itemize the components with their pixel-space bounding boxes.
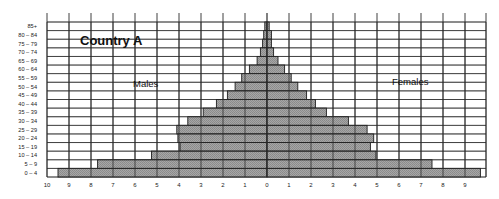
male-bar — [180, 143, 267, 152]
y-axis-label: 70 – 74 — [18, 49, 37, 55]
y-axis-label: 85+ — [28, 23, 38, 29]
female-bar — [267, 108, 326, 117]
x-axis-label: 0 — [265, 182, 269, 188]
y-axis-label: 45 – 49 — [18, 92, 37, 98]
x-axis-label: 5 — [375, 182, 379, 188]
x-axis-label: 6 — [397, 182, 401, 188]
female-bar — [267, 160, 432, 169]
male-bar — [227, 91, 267, 100]
males-label: Males — [133, 78, 159, 89]
y-axis-label: 50 – 54 — [18, 84, 37, 90]
x-axis-label: 5 — [155, 182, 159, 188]
male-bar — [177, 125, 267, 134]
female-bar — [267, 31, 271, 40]
male-bar — [260, 48, 267, 57]
x-axis-label: 1 — [243, 182, 247, 188]
female-bar — [267, 65, 285, 74]
y-axis-label: 0 – 4 — [25, 170, 37, 176]
female-bar — [267, 39, 271, 48]
male-bar — [242, 74, 267, 83]
x-axis-labels: 109876543210123456789 — [44, 182, 468, 188]
y-axis-labels: 85+80 – 8475 – 7970 – 7465 – 6960 – 6455… — [18, 23, 37, 175]
x-axis-label: 6 — [133, 182, 137, 188]
y-axis-label: 35 – 39 — [18, 109, 37, 115]
y-axis-label: 80 – 84 — [18, 32, 37, 38]
x-axis-label: 8 — [441, 182, 445, 188]
y-axis-label: 10 – 14 — [18, 152, 37, 158]
female-bar — [267, 151, 376, 160]
female-bar — [267, 168, 480, 177]
y-axis-label: 60 – 64 — [18, 66, 37, 72]
male-bar — [152, 151, 268, 160]
x-axis-label: 2 — [309, 182, 313, 188]
y-axis-label: 75 – 79 — [18, 41, 37, 47]
male-bar — [178, 134, 267, 143]
x-axis-label: 4 — [177, 182, 181, 188]
y-axis-label: 30 – 34 — [18, 118, 37, 124]
x-axis-label: 9 — [67, 182, 71, 188]
female-bar — [267, 100, 315, 109]
y-axis-label: 20 – 24 — [18, 135, 37, 141]
male-bar — [216, 100, 267, 109]
female-bar — [267, 56, 278, 65]
male-bar — [235, 82, 267, 91]
female-bar — [267, 91, 307, 100]
y-axis-label: 40 – 44 — [18, 101, 37, 107]
female-bar — [267, 82, 298, 91]
population-pyramid-chart: 85+80 – 8475 – 7970 – 7465 – 6960 – 6455… — [0, 0, 499, 199]
female-bar — [267, 74, 291, 83]
male-bar — [98, 160, 267, 169]
x-axis-label: 10 — [44, 182, 51, 188]
x-axis-label: 9 — [463, 182, 467, 188]
female-bar — [267, 117, 348, 126]
female-bar — [267, 48, 274, 57]
x-axis-label: 7 — [111, 182, 115, 188]
females-label: Females — [392, 76, 429, 87]
x-axis-label: 3 — [199, 182, 203, 188]
female-bar — [267, 134, 374, 143]
x-axis-label: 1 — [287, 182, 291, 188]
male-bar — [188, 117, 267, 126]
x-axis-label: 3 — [331, 182, 335, 188]
x-axis-label: 2 — [221, 182, 225, 188]
male-bar — [263, 39, 267, 48]
x-axis-label: 7 — [419, 182, 423, 188]
male-bar — [203, 108, 267, 117]
y-axis-label: 5 – 9 — [25, 161, 37, 167]
x-axis-label: 8 — [89, 182, 93, 188]
y-axis-label: 25 – 29 — [18, 127, 37, 133]
female-bar — [267, 125, 367, 134]
chart-title: Country A — [80, 33, 143, 48]
y-axis-label: 65 – 69 — [18, 58, 37, 64]
x-axis-label: 4 — [353, 182, 357, 188]
male-bar — [249, 65, 267, 74]
male-bar — [58, 168, 267, 177]
y-axis-label: 55 – 59 — [18, 75, 37, 81]
y-axis-label: 15 – 19 — [18, 144, 37, 150]
male-bar — [257, 56, 267, 65]
